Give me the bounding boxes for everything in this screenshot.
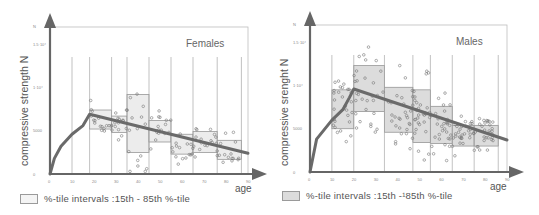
legend: %-tile intervals :15th - 85th %-tile — [20, 193, 190, 204]
svg-text:30: 30 — [374, 177, 379, 182]
y-axis-arrow-icon — [44, 13, 56, 28]
svg-text:70: 70 — [461, 177, 466, 182]
svg-text:1.5·10⁴: 1.5·10⁴ — [293, 40, 306, 45]
x-axis-arrow-icon — [252, 168, 267, 180]
y-axis-label: compressive srenght N — [278, 59, 290, 166]
svg-text:1·10⁴: 1·10⁴ — [33, 85, 43, 90]
svg-text:1·10⁴: 1·10⁴ — [293, 83, 303, 88]
svg-text:N: N — [293, 22, 296, 27]
svg-text:70: 70 — [202, 179, 207, 184]
svg-text:1.5·10⁴: 1.5·10⁴ — [33, 42, 46, 47]
y-tick-labels: 050001·10⁴1.5·10⁴N — [33, 24, 46, 177]
x-tick-labels: 0102030405060708090 — [48, 179, 251, 184]
svg-text:30: 30 — [114, 179, 119, 184]
females-chart: 0102030405060708090 050001·10⁴1.5·10⁴N F… — [0, 0, 270, 215]
x-axis-label: age — [235, 183, 252, 194]
svg-text:60: 60 — [439, 177, 444, 182]
males-chart-panel: 0102030405060708090 050001·10⁴1.5·10⁴N M… — [270, 0, 539, 215]
females-chart-panel: 0102030405060708090 050001·10⁴1.5·10⁴N F… — [0, 0, 270, 215]
svg-text:80: 80 — [224, 179, 229, 184]
y-axis-label: compressive strength N — [18, 56, 30, 166]
svg-text:40: 40 — [136, 179, 141, 184]
svg-text:10: 10 — [70, 179, 75, 184]
svg-text:0: 0 — [33, 172, 36, 177]
legend-swatch — [20, 194, 38, 204]
svg-text:N: N — [33, 24, 36, 29]
legend-swatch — [282, 191, 300, 201]
svg-text:80: 80 — [483, 177, 488, 182]
x-tick-labels: 0102030405060708090 — [308, 177, 510, 182]
x-axis-arrow-icon — [509, 166, 524, 178]
legend: %-tile intervals :15th -¹85th %-tile — [282, 190, 453, 201]
x-axis-label: age — [490, 181, 507, 192]
percentile-boxes — [332, 66, 498, 146]
y-axis-arrow-icon — [304, 11, 316, 26]
svg-text:40: 40 — [396, 177, 401, 182]
y-tick-labels: 050001·10⁴1.5·10⁴N — [293, 22, 306, 175]
legend-label: %-tile intervals :15th -¹85th %-tile — [306, 190, 453, 201]
svg-text:50: 50 — [417, 177, 422, 182]
chart-title: Males — [456, 36, 483, 47]
svg-text:20: 20 — [92, 179, 97, 184]
svg-text:0: 0 — [293, 170, 296, 175]
chart-title: Females — [186, 38, 224, 49]
svg-text:20: 20 — [352, 177, 357, 182]
males-chart: 0102030405060708090 050001·10⁴1.5·10⁴N M… — [270, 0, 539, 215]
svg-text:5000: 5000 — [293, 126, 303, 131]
svg-text:5000: 5000 — [33, 128, 43, 133]
svg-text:0: 0 — [48, 179, 51, 184]
svg-text:0: 0 — [308, 177, 311, 182]
svg-text:60: 60 — [180, 179, 185, 184]
svg-text:10: 10 — [330, 177, 335, 182]
svg-text:50: 50 — [158, 179, 163, 184]
legend-label: %-tile intervals :15th - 85th %-tile — [44, 193, 190, 204]
